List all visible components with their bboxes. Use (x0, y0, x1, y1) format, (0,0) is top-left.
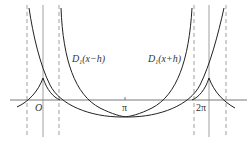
label-2pi: 2π (196, 102, 206, 113)
curve-left-rise (43, 78, 60, 100)
curve-right-rise (192, 78, 209, 100)
label-d1-x-plus-h: D1(x+h) (147, 53, 182, 65)
label-pi: π (122, 102, 127, 113)
label-origin: O (35, 102, 42, 113)
curve-right-tail (209, 78, 235, 108)
diagram: D1(x−h) D1(x+h) O π 2π (0, 0, 251, 144)
label-d1-x-minus-h: D1(x−h) (71, 53, 106, 65)
